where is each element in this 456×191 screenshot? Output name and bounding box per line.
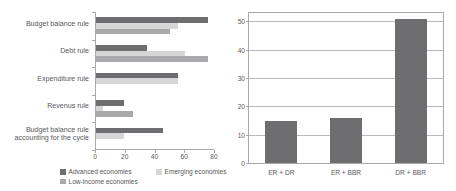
left-chart-bar [96, 133, 124, 139]
left-chart-category-label-line: Budget balance rule [14, 126, 89, 135]
left-chart-category-label: Revenus rule [47, 102, 89, 111]
right-chart-bar [330, 118, 362, 163]
left-chart-legend-row: Low-income economies [60, 178, 230, 188]
left-chart-x-tick-label: 0 [93, 153, 97, 160]
left-chart-x-tick-label: 60 [181, 153, 188, 160]
figure-container: Budget balance ruleDebt ruleExpenditure … [0, 0, 456, 191]
right-chart-panel: 01020304050ER + DRER + BBRDR + BBR [228, 0, 456, 191]
right-chart-y-tick [246, 135, 249, 136]
right-chart-y-tick-label: 30 [238, 75, 245, 82]
right-chart-bar [265, 121, 297, 163]
left-chart-category-label-line: Debt rule [60, 47, 89, 56]
left-chart-legend-label: Advanced economies [69, 168, 132, 175]
right-chart-y-tick-label: 0 [241, 160, 245, 167]
right-chart-bar [395, 19, 427, 163]
left-chart-x-tick-label: 80 [210, 153, 217, 160]
left-chart-legend-row: Advanced economiesEmerging economies [60, 168, 230, 178]
left-chart-bar [96, 78, 178, 84]
right-chart-y-tick [246, 50, 249, 51]
left-chart-plot-area: 020406080 [95, 12, 214, 150]
left-chart-legend-item: Advanced economies [60, 168, 132, 175]
right-chart-y-tick-label: 20 [238, 103, 245, 110]
left-chart-x-tick-label: 20 [121, 153, 128, 160]
left-chart-category-label-line: Budget balance rule [26, 20, 89, 29]
left-chart-y-tick [92, 67, 95, 68]
left-chart-x-tick-label: 40 [151, 153, 158, 160]
left-chart-category-label: Debt rule [60, 47, 89, 56]
left-chart-category-label: Expenditure rule [37, 75, 89, 84]
left-chart-y-tick [92, 95, 95, 96]
left-chart-legend-swatch [60, 169, 66, 175]
left-chart-category-label-line: accounting for the cycle [14, 134, 89, 143]
left-chart-bar [96, 111, 133, 117]
left-chart-category-label: Budget balance ruleaccounting for the cy… [14, 126, 89, 143]
left-chart-legend-swatch [156, 169, 162, 175]
left-chart-panel: Budget balance ruleDebt ruleExpenditure … [0, 0, 228, 191]
left-chart-y-tick [92, 122, 95, 123]
left-chart-category-label-line: Expenditure rule [37, 75, 89, 84]
left-chart-bar [96, 29, 170, 35]
right-chart-y-tick [246, 21, 249, 22]
right-chart-x-tick-label: ER + BBR [331, 169, 361, 176]
left-chart-bar [96, 56, 208, 62]
right-chart-x-tick-label: ER + DR [268, 169, 294, 176]
right-chart-plot-area: 01020304050ER + DRER + BBRDR + BBR [248, 12, 444, 164]
left-chart-legend-swatch [60, 179, 66, 185]
right-chart-y-tick-label: 50 [238, 18, 245, 25]
left-chart-legend-item: Emerging economies [156, 168, 226, 175]
right-chart-y-tick-label: 10 [238, 131, 245, 138]
left-chart-category-label-line: Revenus rule [47, 102, 89, 111]
right-chart-x-tick-label: DR + BBR [395, 169, 426, 176]
right-chart-y-tick [246, 106, 249, 107]
right-chart-y-tick [246, 78, 249, 79]
left-chart-legend-label: Emerging economies [165, 168, 227, 175]
left-chart-legend-label: Low-income economies [69, 178, 138, 185]
left-chart-y-tick [92, 12, 95, 13]
right-chart-y-tick-label: 40 [238, 46, 245, 53]
left-chart-category-label: Budget balance rule [26, 20, 89, 29]
left-chart-y-tick [92, 40, 95, 41]
left-chart-legend-item: Low-income economies [60, 178, 138, 185]
left-chart-category-labels: Budget balance ruleDebt ruleExpenditure … [0, 10, 92, 150]
left-chart-legend: Advanced economiesEmerging economiesLow-… [60, 168, 230, 187]
right-chart-y-tick [246, 163, 249, 164]
